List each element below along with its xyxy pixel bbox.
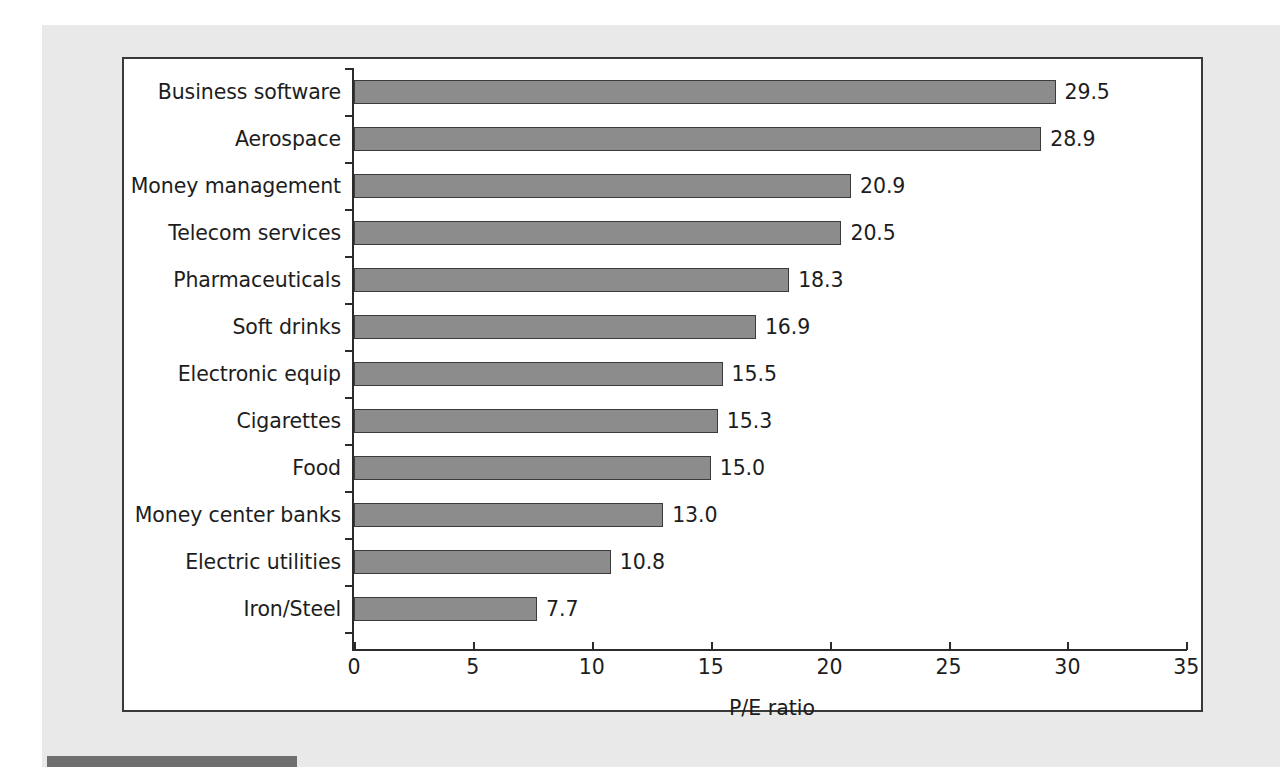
category-label: Electric utilities <box>41 550 341 574</box>
x-axis-tick <box>1186 642 1188 650</box>
bar-row: Electric utilities10.8 <box>124 538 1205 585</box>
bar-row: Cigarettes15.3 <box>124 397 1205 444</box>
category-label: Money management <box>41 174 341 198</box>
chart-frame: Business software29.5Aerospace28.9Money … <box>122 57 1203 712</box>
y-axis-tick <box>345 68 354 70</box>
y-axis-tick <box>345 444 354 446</box>
bar-row: Pharmaceuticals18.3 <box>124 256 1205 303</box>
bar <box>354 127 1041 151</box>
y-axis-tick <box>345 303 354 305</box>
bar <box>354 174 851 198</box>
bar-value-label: 18.3 <box>798 268 843 292</box>
x-axis-tick-label: 35 <box>1173 655 1199 679</box>
y-axis-tick <box>345 256 354 258</box>
bar <box>354 550 611 574</box>
bar <box>354 268 789 292</box>
category-label: Iron/Steel <box>41 597 341 621</box>
y-axis-tick <box>345 162 354 164</box>
category-label: Electronic equip <box>41 362 341 386</box>
category-label: Food <box>41 456 341 480</box>
bar-row: Money center banks13.0 <box>124 491 1205 538</box>
category-label: Cigarettes <box>41 409 341 433</box>
y-axis-tick <box>345 491 354 493</box>
plot-area: Business software29.5Aerospace28.9Money … <box>124 59 1205 714</box>
bar-row: Telecom services20.5 <box>124 209 1205 256</box>
category-label: Pharmaceuticals <box>41 268 341 292</box>
x-axis-tick-label: 30 <box>1054 655 1080 679</box>
x-axis-line <box>352 649 1187 651</box>
figure-root: Business software29.5Aerospace28.9Money … <box>0 0 1280 767</box>
bar-value-label: 29.5 <box>1065 80 1110 104</box>
bar <box>354 221 841 245</box>
y-axis-tick <box>345 632 354 634</box>
bar-row: Business software29.5 <box>124 68 1205 115</box>
bar-value-label: 15.3 <box>727 409 772 433</box>
x-axis-tick <box>473 642 475 650</box>
bar-value-label: 16.9 <box>765 315 810 339</box>
x-axis-tick-label: 20 <box>817 655 843 679</box>
bar-value-label: 20.9 <box>860 174 905 198</box>
bar <box>354 315 756 339</box>
category-label: Money center banks <box>41 503 341 527</box>
bar-row: Electronic equip15.5 <box>124 350 1205 397</box>
x-axis-tick-label: 25 <box>935 655 961 679</box>
bar-row: Soft drinks16.9 <box>124 303 1205 350</box>
x-axis-tick-label: 5 <box>466 655 479 679</box>
bar <box>354 597 537 621</box>
x-axis-tick-label: 10 <box>579 655 605 679</box>
category-label: Soft drinks <box>41 315 341 339</box>
bar-value-label: 15.5 <box>732 362 777 386</box>
y-axis-tick <box>345 585 354 587</box>
y-axis-tick <box>345 209 354 211</box>
bar-value-label: 15.0 <box>720 456 765 480</box>
footer-rule <box>47 756 297 767</box>
bar-value-label: 20.5 <box>850 221 895 245</box>
x-axis-tick-label: 15 <box>698 655 724 679</box>
bar <box>354 409 718 433</box>
x-axis-tick <box>1067 642 1069 650</box>
category-label: Telecom services <box>41 221 341 245</box>
x-axis-tick <box>949 642 951 650</box>
bar-value-label: 7.7 <box>546 597 578 621</box>
y-axis-tick <box>345 115 354 117</box>
bar-value-label: 10.8 <box>620 550 665 574</box>
bar-row: Aerospace28.9 <box>124 115 1205 162</box>
bar-value-label: 28.9 <box>1050 127 1095 151</box>
bar <box>354 456 711 480</box>
y-axis-tick <box>345 350 354 352</box>
x-axis-tick <box>830 642 832 650</box>
bar <box>354 503 663 527</box>
y-axis-tick <box>345 538 354 540</box>
x-axis-tick <box>711 642 713 650</box>
x-axis-title: P/E ratio <box>124 696 1205 720</box>
bar-value-label: 13.0 <box>672 503 717 527</box>
category-label: Aerospace <box>41 127 341 151</box>
bar-row: Money management20.9 <box>124 162 1205 209</box>
y-axis-tick <box>345 397 354 399</box>
x-axis-tick-label: 0 <box>347 655 360 679</box>
bar-row: Food15.0 <box>124 444 1205 491</box>
bar <box>354 80 1056 104</box>
category-label: Business software <box>41 80 341 104</box>
x-axis-tick <box>354 642 356 650</box>
bar-row: Iron/Steel7.7 <box>124 585 1205 632</box>
x-axis-tick <box>592 642 594 650</box>
bar <box>354 362 723 386</box>
